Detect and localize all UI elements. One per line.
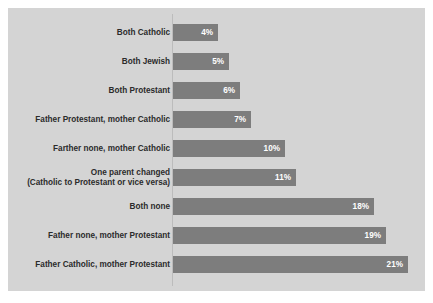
bar-category-label-line1: Father Catholic, mother Protestant [35,260,170,269]
plot-area: Both Catholic4%Both Jewish5%Both Protest… [8,8,425,291]
bar-value-label: 21% [387,259,403,270]
bar-category-label: Farther none, mother Catholic [0,144,170,154]
bar-row: Father Protestant, mother Catholic7% [8,111,425,128]
bar[interactable]: 4% [173,24,218,41]
bar-category-label: Both Jewish [0,57,170,67]
bar-category-label: Father none, mother Protestant [0,231,170,241]
bar[interactable]: 11% [173,169,296,186]
bar-category-label-line1: Farther none, mother Catholic [53,144,170,153]
bar-category-label-line1: One parent changed [91,168,170,177]
chart-panel: Both Catholic4%Both Jewish5%Both Protest… [8,8,425,291]
bar-category-label: Both Catholic [0,28,170,38]
bar[interactable]: 10% [173,140,285,157]
bar-category-label-line1: Both none [130,202,170,211]
bar-row: Both Catholic4% [8,24,425,41]
bar-category-label: Both Protestant [0,86,170,96]
bar-value-label: 4% [201,27,213,38]
bar-row: One parent changed(Catholic to Protestan… [8,169,425,186]
bar-row: Both Jewish5% [8,53,425,70]
bar[interactable]: 7% [173,111,251,128]
bar-category-label-line2: (Catholic to Protestant or vice versa) [0,178,170,188]
bar-value-label: 18% [353,201,369,212]
bar-category-label: One parent changed(Catholic to Protestan… [0,168,170,187]
bar-category-label: Both none [0,202,170,212]
bar-category-label-line1: Father Protestant, mother Catholic [35,115,170,124]
bar-category-label-line1: Both Protestant [109,86,170,95]
bar-value-label: 7% [234,114,246,125]
bar-value-label: 5% [212,56,224,67]
bar-row: Father Catholic, mother Protestant21% [8,256,425,273]
bar-value-label: 11% [275,172,291,183]
bar-row: Farther none, mother Catholic10% [8,140,425,157]
bar[interactable]: 6% [173,82,240,99]
bar-value-label: 6% [223,85,235,96]
bar-value-label: 19% [365,230,381,241]
bar-row: Father none, mother Protestant19% [8,227,425,244]
bar-category-label: Father Protestant, mother Catholic [0,115,170,125]
bar-category-label: Father Catholic, mother Protestant [0,260,170,270]
bar-category-label-line1: Both Catholic [117,28,170,37]
bar[interactable]: 18% [173,198,374,215]
bar-value-label: 10% [264,143,280,154]
bar[interactable]: 21% [173,256,408,273]
bar[interactable]: 19% [173,227,386,244]
bar-row: Both none18% [8,198,425,215]
bar-category-label-line1: Both Jewish [122,57,170,66]
bar-category-label-line1: Father none, mother Protestant [48,231,170,240]
bar[interactable]: 5% [173,53,229,70]
bar-row: Both Protestant6% [8,82,425,99]
